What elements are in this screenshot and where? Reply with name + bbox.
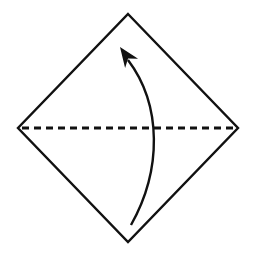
diagram-stroke-group (18, 14, 238, 242)
fold-arrow-head-icon (120, 47, 138, 68)
diagram-canvas (0, 0, 253, 258)
origami-step-diagram (0, 0, 253, 258)
fold-arrow-shaft (128, 60, 154, 225)
